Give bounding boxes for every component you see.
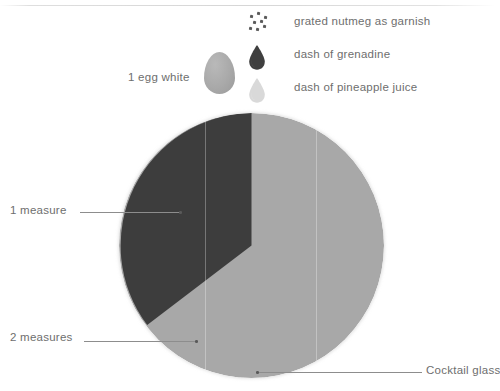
- top-rule-divider: [0, 5, 495, 6]
- glass-outline-line: [205, 113, 206, 378]
- legend-label-grenadine: dash of grenadine: [294, 48, 390, 60]
- nutmeg-specks-icon: [246, 8, 280, 41]
- leader-dot-two-measures: [195, 340, 198, 343]
- proportions-pie-chart: [119, 113, 384, 378]
- callout-label-two-measures: 2 measures: [10, 331, 73, 343]
- ingredient-legend: grated nutmeg as garnish dash of grenadi…: [246, 8, 491, 107]
- glass-outline-line: [316, 113, 317, 378]
- droplet-icon: [246, 41, 280, 74]
- callout-label-one-measure: 1 measure: [10, 204, 67, 216]
- droplet-icon: [246, 74, 280, 107]
- callout-label-cocktail-glass: Cocktail glass: [426, 364, 500, 376]
- legend-label-nutmeg: grated nutmeg as garnish: [294, 15, 430, 27]
- leader-dot-cocktail-glass: [256, 371, 259, 374]
- legend-label-pineapple-juice: dash of pineapple juice: [294, 81, 417, 93]
- leader-line-one-measure: [80, 212, 180, 213]
- legend-item-grenadine: dash of grenadine: [246, 41, 491, 74]
- leader-dot-one-measure: [179, 211, 182, 214]
- egg-white-label: 1 egg white: [128, 71, 190, 83]
- egg-icon: [204, 52, 235, 94]
- legend-item-pineapple-juice: dash of pineapple juice: [246, 74, 491, 107]
- legend-item-nutmeg: grated nutmeg as garnish: [246, 8, 491, 41]
- egg-white-item: 1 egg white: [128, 52, 246, 104]
- leader-line-two-measures: [84, 341, 196, 342]
- leader-line-cocktail-glass: [258, 372, 422, 373]
